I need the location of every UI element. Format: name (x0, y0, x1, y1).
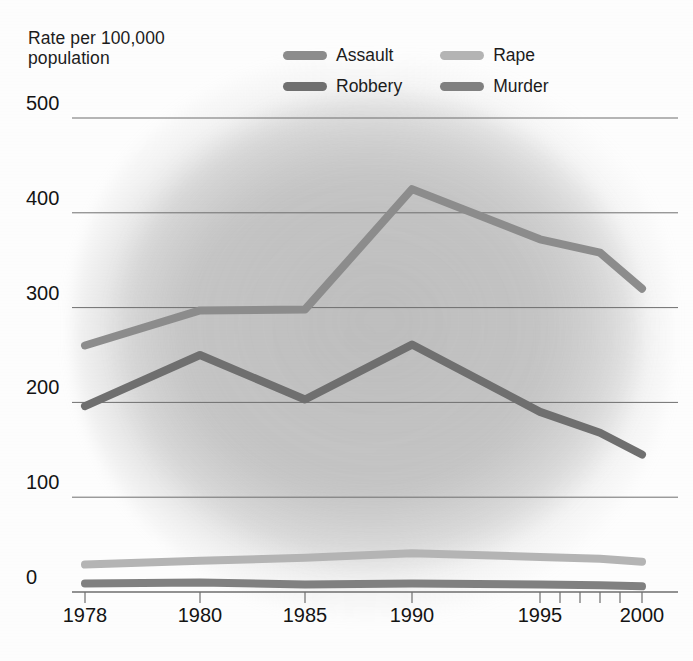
gridlines (72, 118, 678, 592)
series-line-murder (85, 583, 642, 587)
legend-item-rape: Rape (440, 44, 548, 66)
legend-item-murder: Murder (440, 75, 548, 97)
legend-swatch-assault (283, 51, 327, 60)
x-tick-label-1980: 1980 (178, 604, 223, 627)
y-tick-label-0: 0 (26, 566, 37, 589)
y-tick-label-500: 500 (26, 92, 59, 115)
x-tick-label-1985: 1985 (283, 604, 328, 627)
x-tick-label-2000: 2000 (620, 604, 665, 627)
legend-swatch-murder (440, 82, 484, 91)
series-line-rape (85, 553, 642, 564)
legend-swatch-rape (440, 51, 484, 60)
series-lines (85, 189, 642, 586)
y-tick-label-400: 400 (26, 187, 59, 210)
legend-swatch-robbery (283, 82, 327, 91)
y-axis-title: Rate per 100,000 population (28, 28, 165, 68)
chart-page: Rate per 100,000 population Assault Rape… (0, 0, 693, 661)
legend-label-rape: Rape (493, 45, 535, 65)
y-tick-label-300: 300 (26, 282, 59, 305)
series-line-robbery (85, 345, 642, 455)
legend-item-robbery: Robbery (283, 75, 402, 97)
x-axis-ticks (85, 592, 642, 603)
legend-label-assault: Assault (336, 45, 393, 65)
legend-label-murder: Murder (493, 76, 548, 96)
x-tick-label-1995: 1995 (518, 604, 563, 627)
chart-legend: Assault Rape Robbery Murder (283, 44, 549, 97)
x-tick-label-1978: 1978 (63, 604, 108, 627)
legend-label-robbery: Robbery (336, 76, 402, 96)
chart-plot-area (0, 0, 693, 661)
y-tick-label-200: 200 (26, 376, 59, 399)
y-tick-label-100: 100 (26, 471, 59, 494)
legend-item-assault: Assault (283, 44, 402, 66)
x-tick-label-1990: 1990 (390, 604, 435, 627)
